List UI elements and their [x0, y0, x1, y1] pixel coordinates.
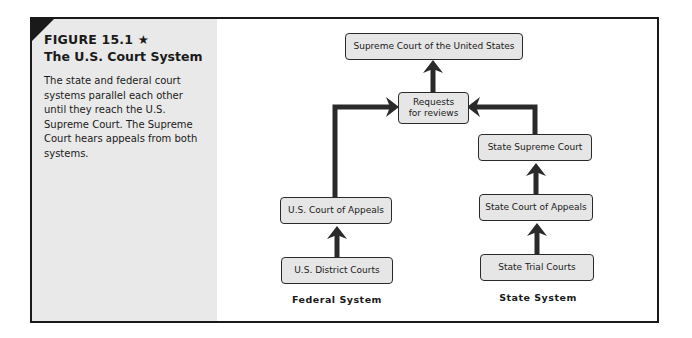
node-state-court-of-appeals: State Court of Appeals: [479, 194, 593, 221]
node-supreme-court: Supreme Court of the United States: [345, 33, 523, 60]
node-state-trial-courts: State Trial Courts: [480, 254, 594, 281]
node-requests-for-reviews: Requests for reviews: [398, 92, 469, 124]
state-system-label: State System: [499, 292, 577, 303]
node-state-supreme-court: State Supreme Court: [478, 134, 592, 161]
node-us-district-courts: U.S. District Courts: [281, 257, 393, 284]
node-us-court-of-appeals: U.S. Court of Appeals: [280, 197, 392, 224]
federal-system-label: Federal System: [292, 294, 382, 305]
